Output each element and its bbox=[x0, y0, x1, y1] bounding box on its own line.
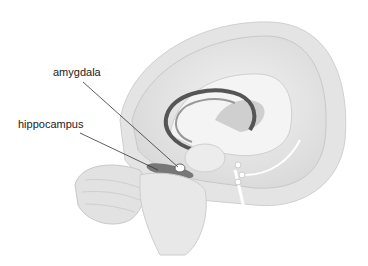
cerebellum bbox=[75, 165, 145, 224]
brain-diagram: amygdala hippocampus bbox=[0, 0, 368, 266]
brain-illustration bbox=[0, 0, 368, 266]
brainstem bbox=[140, 173, 206, 255]
amygdala-label: amygdala bbox=[53, 66, 101, 78]
hippocampus-label: hippocampus bbox=[18, 118, 83, 130]
